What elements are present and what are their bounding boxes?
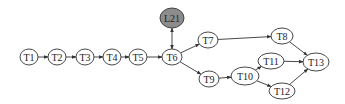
- edge-t8-to-t13: [290, 42, 308, 56]
- node-t5: T5: [129, 49, 147, 65]
- node-label: T1: [23, 52, 34, 63]
- node-t12: T12: [269, 83, 295, 99]
- edge-t6-to-t9: [180, 62, 201, 74]
- node-label: T2: [51, 52, 62, 63]
- node-t8: T8: [271, 28, 293, 44]
- node-t6: T6: [162, 49, 182, 65]
- node-label: T5: [132, 52, 143, 63]
- node-label: T4: [106, 52, 117, 63]
- node-t7: T7: [198, 32, 218, 48]
- node-label: L21: [164, 13, 180, 24]
- node-t9: T9: [199, 71, 219, 87]
- node-label: T9: [203, 74, 214, 85]
- node-t1: T1: [20, 49, 38, 65]
- node-label: T11: [263, 56, 279, 67]
- edge-t6-to-t7: [181, 44, 200, 53]
- node-label: T8: [276, 31, 287, 42]
- node-t13: T13: [303, 53, 329, 71]
- node-t2: T2: [48, 49, 66, 65]
- node-l21: L21: [160, 8, 184, 28]
- task-flow-diagram: T1T2T3T4T5T6L21T7T8T9T10T11T12T13: [0, 0, 345, 104]
- edge-t10-to-t11: [255, 66, 261, 70]
- edge-t12-to-t13: [290, 69, 308, 85]
- node-t3: T3: [76, 49, 94, 65]
- edge-t7-to-t8: [218, 37, 271, 40]
- node-label: T13: [308, 57, 324, 68]
- node-label: T7: [202, 35, 213, 46]
- node-label: T10: [237, 71, 253, 82]
- node-t4: T4: [103, 49, 121, 65]
- edge-t10-to-t12: [257, 81, 271, 87]
- node-label: T6: [166, 52, 177, 63]
- node-label: T12: [274, 86, 290, 97]
- edge-t9-to-t10: [219, 77, 231, 78]
- node-t10: T10: [231, 67, 259, 85]
- node-t11: T11: [258, 53, 284, 69]
- node-label: T3: [79, 52, 90, 63]
- nodes-layer: T1T2T3T4T5T6L21T7T8T9T10T11T12T13: [20, 8, 329, 99]
